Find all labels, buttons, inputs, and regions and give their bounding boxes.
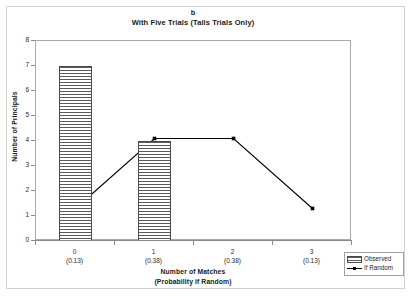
observed-bar — [138, 141, 171, 241]
legend-label-observed: Observed — [364, 256, 391, 262]
if-random-data-point — [311, 207, 315, 211]
y-axis-title: Number of Principals — [11, 67, 18, 187]
y-axis-tick-label: 4 — [0, 137, 29, 144]
x-axis-category-label: 0(0.13) — [35, 247, 114, 265]
x-axis-category-label: 3(0.13) — [272, 247, 351, 265]
x-axis-category-probability: (0.13) — [272, 256, 351, 265]
x-axis-category-value: 3 — [310, 248, 314, 255]
if-random-data-point — [232, 137, 236, 141]
x-axis-category-value: 2 — [231, 248, 235, 255]
legend-line-swatch-icon — [347, 265, 362, 272]
chart-title: b With Five Trials (Tails Trials Only) — [35, 8, 351, 27]
x-axis-tick — [35, 241, 36, 245]
chart-title-panel-label: b — [191, 8, 196, 17]
legend-bar-swatch-icon — [347, 256, 362, 263]
chart-title-subtitle: With Five Trials (Tails Trials Only) — [35, 18, 351, 28]
y-axis-tick-label: 6 — [0, 87, 29, 94]
x-axis-title: Number of Matches (Probability if Random… — [35, 267, 351, 286]
y-axis-tick-label: 0 — [0, 237, 29, 244]
y-axis-tick-label: 2 — [0, 187, 29, 194]
x-axis-category-probability: (0.38) — [193, 256, 272, 265]
legend-label-if-random: If Random — [364, 265, 393, 271]
chart-figure: b With Five Trials (Tails Trials Only) N… — [0, 0, 412, 296]
x-axis-category-label: 2(0.38) — [193, 247, 272, 265]
x-axis-title-line2: (Probability if Random) — [35, 277, 351, 287]
plot-area — [35, 40, 351, 240]
legend-item-if-random: If Random — [347, 264, 401, 273]
x-axis-category-label: 1(0.38) — [114, 247, 193, 265]
y-axis-tick-label: 8 — [0, 37, 29, 44]
y-axis-tick-label: 5 — [0, 112, 29, 119]
x-axis-tick — [193, 241, 194, 245]
observed-bar — [59, 66, 92, 241]
if-random-line-path — [76, 139, 313, 209]
if-random-data-point — [153, 137, 157, 141]
x-axis-title-line1: Number of Matches — [161, 268, 226, 275]
x-axis-category-probability: (0.13) — [35, 256, 114, 265]
legend-item-observed: Observed — [347, 255, 401, 264]
x-axis-category-value: 1 — [152, 248, 156, 255]
chart-legend: Observed If Random — [344, 252, 404, 276]
plot-inner — [36, 41, 350, 239]
x-axis-tick — [114, 241, 115, 245]
x-axis-category-value: 0 — [73, 248, 77, 255]
x-axis-tick — [272, 241, 273, 245]
y-axis-tick-label: 3 — [0, 162, 29, 169]
y-axis-tick-label: 1 — [0, 212, 29, 219]
x-axis-tick — [351, 241, 352, 245]
y-axis-tick-label: 7 — [0, 62, 29, 69]
x-axis-category-probability: (0.38) — [114, 256, 193, 265]
